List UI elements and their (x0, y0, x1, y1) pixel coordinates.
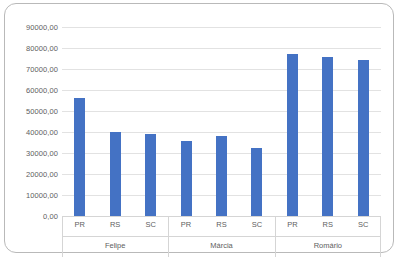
y-axis-tick-label: 20000,00 (26, 170, 58, 179)
category-tick-label: PR (287, 220, 297, 229)
category-tick-label: RS (323, 220, 333, 229)
y-axis-tick-label: 50000,00 (26, 107, 58, 116)
group-axis-label: Felipe (105, 241, 125, 250)
category-tick-label: SC (358, 220, 368, 229)
bar (251, 148, 262, 216)
bar (145, 134, 156, 216)
y-axis-tick-label: 0,00 (43, 212, 58, 221)
y-axis-tick-label: 40000,00 (26, 128, 58, 137)
chart-frame: 90000,0080000,0070000,0060000,0050000,00… (4, 3, 394, 253)
category-tick-label: PR (181, 220, 191, 229)
gridline (62, 48, 381, 49)
group-axis-label: Romário (314, 241, 342, 250)
category-axis-mid-line (62, 236, 381, 237)
y-axis-tick-label: 60000,00 (26, 86, 58, 95)
group-axis-label: Márcia (210, 241, 233, 250)
bar (181, 141, 192, 216)
category-axis-top-line (62, 216, 381, 217)
bar (322, 57, 333, 216)
category-tick-label: RS (216, 220, 226, 229)
bar (216, 136, 227, 216)
category-tick-label: RS (110, 220, 120, 229)
y-axis-tick-label: 80000,00 (26, 44, 58, 53)
y-axis-tick-label: 70000,00 (26, 65, 58, 74)
axis-end-tick (380, 217, 381, 257)
y-axis-tick-label: 90000,00 (26, 23, 58, 32)
group-separator-tick (275, 217, 276, 257)
bar (110, 132, 121, 216)
plot-area (62, 27, 381, 216)
gridline (62, 27, 381, 28)
axis-end-tick (62, 217, 63, 257)
category-tick-label: PR (75, 220, 85, 229)
category-axis: PRRSSCFelipePRRSSCMárciaPRRSSCRomário (62, 216, 381, 257)
group-separator-tick (168, 217, 169, 257)
category-tick-label: SC (252, 220, 262, 229)
category-tick-label: SC (145, 220, 155, 229)
bar (287, 54, 298, 216)
y-axis-tick-label: 30000,00 (26, 149, 58, 158)
y-axis: 90000,0080000,0070000,0060000,0050000,00… (5, 27, 58, 216)
y-axis-tick-label: 10000,00 (26, 191, 58, 200)
bar (74, 98, 85, 216)
bar (358, 60, 369, 216)
